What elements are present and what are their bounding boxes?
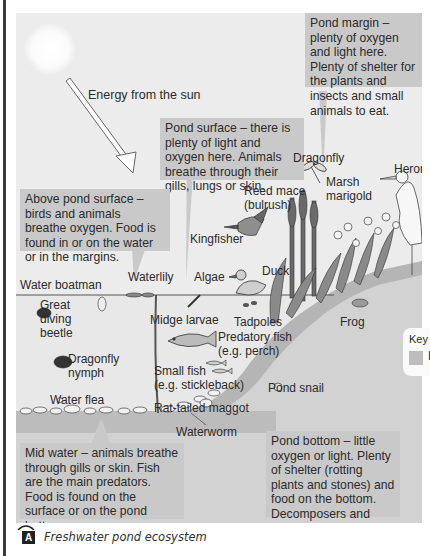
label-water-flea: Water flea xyxy=(50,394,104,408)
figure-badge: A xyxy=(22,531,35,544)
label-water-boatman: Water boatman xyxy=(20,279,102,293)
label-rat-tailed-maggot: Rat-tailed maggot xyxy=(154,402,249,416)
label-kingfisher: Kingfisher xyxy=(190,233,243,247)
habitat-swatch xyxy=(409,351,423,365)
label-duck: Duck xyxy=(262,265,289,279)
label-pond-snail: Pond snail xyxy=(268,382,324,396)
legend-key: Key Habitat xyxy=(403,328,430,376)
pond-ecosystem-diagram: Energy from the sun Pond margin – plenty… xyxy=(16,13,422,523)
label-marsh-marigold-1: Marsh xyxy=(326,176,359,190)
label-heron: Heron xyxy=(394,163,422,177)
label-predatory-fish-2: (e.g. perch) xyxy=(218,345,279,359)
figure-corner-mark xyxy=(16,522,36,530)
label-great-diving-beetle-2: diving xyxy=(40,313,71,327)
pond-bottom-box: Pond bottom – little oxygen or light. Pl… xyxy=(266,431,400,517)
label-great-diving-beetle-1: Great xyxy=(40,299,70,313)
label-algae: Algae xyxy=(194,271,225,285)
label-small-fish-1: Small fish xyxy=(154,365,206,379)
label-midge-larvae: Midge larvae xyxy=(150,314,219,328)
pond-surface-box: Pond surface – there is plenty of light … xyxy=(160,118,304,180)
above-surface-box: Above pond surface – birds and animals b… xyxy=(20,189,170,251)
label-predatory-fish-1: Predatory fish xyxy=(218,331,292,345)
legend-title: Key xyxy=(409,333,430,345)
page-edge-bar xyxy=(3,0,6,556)
label-small-fish-2: (e.g. stickleback) xyxy=(154,379,244,393)
label-waterlily: Waterlily xyxy=(128,271,174,285)
label-great-diving-beetle-3: beetle xyxy=(40,327,73,341)
label-frog: Frog xyxy=(340,316,365,330)
label-dragonfly-nymph-2: nymph xyxy=(68,367,104,381)
label-reed-mace-2: (bulrush) xyxy=(244,199,291,213)
figure-caption-text: Freshwater pond ecosystem xyxy=(44,530,207,544)
label-waterworm: Waterworm xyxy=(176,426,237,440)
mid-water-box: Mid water – animals breathe through gill… xyxy=(20,443,184,519)
label-tadpoles: Tadpoles xyxy=(234,316,282,330)
label-dragonfly-nymph-1: Dragonfly xyxy=(68,353,119,367)
label-dragonfly: Dragonfly xyxy=(293,152,344,166)
label-marsh-marigold-2: marigold xyxy=(326,190,372,204)
sun-energy-label: Energy from the sun xyxy=(88,89,201,103)
label-reed-mace-1: Reed mace xyxy=(244,185,305,199)
pond-margin-box: Pond margin – plenty of oxygen and light… xyxy=(305,13,422,87)
